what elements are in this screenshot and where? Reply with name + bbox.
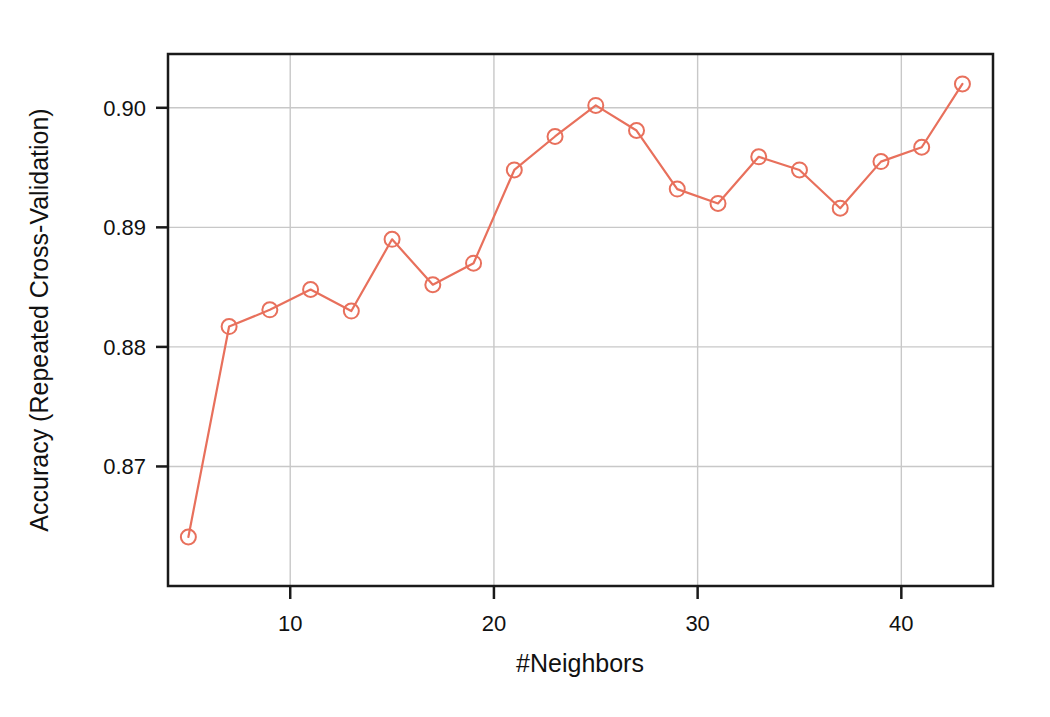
y-tick-label: 0.90 xyxy=(103,96,146,121)
chart-figure: 0.870.880.890.90 10203040 #Neighbors Acc… xyxy=(0,0,1050,717)
x-tick-label: 40 xyxy=(889,611,913,636)
y-tick-label: 0.87 xyxy=(103,454,146,479)
x-tick-label: 30 xyxy=(685,611,709,636)
accuracy-vs-neighbors-line-chart: 0.870.880.890.90 10203040 #Neighbors Acc… xyxy=(0,0,1050,717)
y-tick-label: 0.89 xyxy=(103,215,146,240)
x-tick-label: 10 xyxy=(278,611,302,636)
x-tick-label: 20 xyxy=(482,611,506,636)
y-tick-label: 0.88 xyxy=(103,335,146,360)
y-axis-title: Accuracy (Repeated Cross-Validation) xyxy=(25,108,53,531)
x-axis-title: #Neighbors xyxy=(516,649,644,677)
